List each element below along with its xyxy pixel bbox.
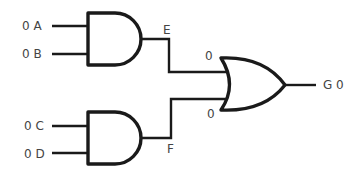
and-gate-1 <box>88 13 141 65</box>
input-a-label: 0 A <box>22 20 42 32</box>
input-c-label: 0 C <box>24 120 44 132</box>
input-d-label: 0 D <box>24 148 45 160</box>
wire-f <box>142 99 232 138</box>
or-input-top-value: 0 <box>205 50 213 62</box>
and-gate-2 <box>88 112 141 164</box>
circuit-diagram <box>0 0 364 180</box>
or-input-bottom-value: 0 <box>207 108 215 120</box>
signal-f-label: F <box>167 143 174 155</box>
signal-e-label: E <box>163 24 171 36</box>
input-b-label: 0 B <box>22 48 42 60</box>
or-gate <box>221 58 285 110</box>
output-g-label: G 0 <box>323 79 344 91</box>
wire-e <box>142 39 232 72</box>
